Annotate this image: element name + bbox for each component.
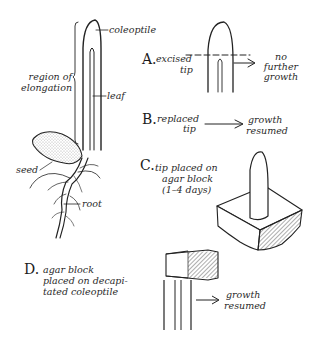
experiment-d-result-line2: resumed (224, 301, 266, 311)
experiment-d-description-line3: tated coleoptile (43, 287, 118, 297)
leaf-label: leaf (107, 91, 125, 101)
experiment-d-illustration (164, 250, 219, 330)
experiment-b-arrow (205, 120, 243, 128)
experiment-c-description-line2: agar block (162, 174, 213, 184)
coleoptile-outline (83, 20, 101, 150)
experiment-b-result-line1: growth (248, 115, 282, 125)
root-main (56, 158, 82, 238)
experiment-c-description-line1: tip placed on (155, 163, 218, 173)
experiment-d-result-line1: growth (226, 290, 260, 300)
experiment-a-description-line2: tip (180, 65, 193, 75)
region-of-elongation-label-line1: region of (14, 72, 72, 82)
experiment-a-result-line3: growth (256, 72, 306, 82)
experiment-c-letter: C. (140, 158, 155, 172)
experiment-c-description-line3: (1–4 days) (162, 185, 211, 195)
root-label: root (82, 199, 102, 209)
experiment-a-description-line1: excised (156, 54, 192, 64)
coleoptile-label: coleoptile (109, 25, 156, 35)
leaf-outline (90, 48, 94, 150)
region-of-elongation-label-line2: elongation (6, 83, 72, 93)
experiment-b-result-line2: resumed (246, 126, 288, 136)
seed-label: seed (16, 165, 38, 175)
experiment-b-letter: B. (142, 112, 157, 126)
experiment-a-letter: A. (142, 52, 157, 66)
experiment-c-illustration (217, 152, 302, 250)
excised-tip-shape (250, 152, 268, 220)
experiment-b-description-line2: tip (183, 124, 196, 134)
experiment-a-illustration (186, 22, 255, 92)
experiment-d-description-line2: placed on decapi- (43, 276, 128, 286)
elongation-bracket (73, 22, 78, 144)
experiment-d-description-line1: agar block (43, 265, 94, 275)
experiment-d-letter: D. (24, 262, 39, 276)
